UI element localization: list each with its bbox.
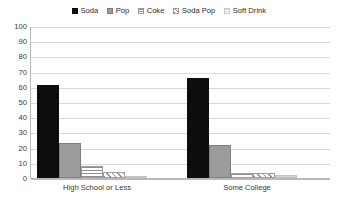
bars-layer xyxy=(31,27,330,178)
legend-item-soft-drink[interactable]: Soft Drink xyxy=(224,6,266,15)
legend-item-label: Pop xyxy=(116,6,130,15)
bar[interactable] xyxy=(103,172,125,178)
x-axis: High School or LessSome College xyxy=(30,183,330,197)
y-axis-tick-label: 60 xyxy=(0,84,27,92)
y-axis-tick-label: 80 xyxy=(0,53,27,61)
bar[interactable] xyxy=(275,175,297,178)
bar[interactable] xyxy=(253,173,275,178)
y-axis-tick-label: 100 xyxy=(0,23,27,31)
bar-chart: SodaPopCokeSoda PopSoft Drink 1009080706… xyxy=(0,0,338,207)
chart-legend: SodaPopCokeSoda PopSoft Drink xyxy=(0,6,338,15)
legend-item-coke[interactable]: Coke xyxy=(138,6,164,15)
y-axis-tick-label: 20 xyxy=(0,145,27,153)
legend-item-label: Soft Drink xyxy=(233,6,266,15)
legend-swatch-icon xyxy=(173,8,179,14)
legend-swatch-icon xyxy=(72,8,78,14)
legend-swatch-icon xyxy=(224,8,230,14)
bar[interactable] xyxy=(81,166,103,178)
bar[interactable] xyxy=(37,85,59,178)
legend-item-label: Soda xyxy=(80,6,98,15)
y-axis-tick-label: 10 xyxy=(0,160,27,168)
plot-area xyxy=(30,27,330,179)
legend-item-soda[interactable]: Soda xyxy=(72,6,98,15)
bar[interactable] xyxy=(209,145,231,178)
y-axis-tick-label: 50 xyxy=(0,99,27,107)
legend-item-label: Soda Pop xyxy=(182,6,215,15)
y-axis-tick-label: 30 xyxy=(0,129,27,137)
bar[interactable] xyxy=(231,173,253,178)
x-axis-tick-label: Some College xyxy=(223,183,271,193)
bar-group xyxy=(187,27,297,178)
legend-swatch-icon xyxy=(138,8,144,14)
bar[interactable] xyxy=(125,176,147,178)
legend-item-label: Coke xyxy=(147,6,165,15)
legend-item-pop[interactable]: Pop xyxy=(107,6,129,15)
y-axis-tick-label: 70 xyxy=(0,69,27,77)
bar[interactable] xyxy=(59,143,81,178)
bar-group xyxy=(37,27,147,178)
y-axis-tick-label: 0 xyxy=(0,175,27,183)
gridline xyxy=(31,179,330,180)
legend-swatch-icon xyxy=(107,8,113,14)
y-axis-tick-label: 90 xyxy=(0,38,27,46)
bar[interactable] xyxy=(187,78,209,178)
y-axis: 1009080706050403020100 xyxy=(0,27,27,179)
legend-item-soda-pop[interactable]: Soda Pop xyxy=(173,6,215,15)
y-axis-tick-label: 40 xyxy=(0,114,27,122)
x-axis-tick-label: High School or Less xyxy=(63,183,131,193)
